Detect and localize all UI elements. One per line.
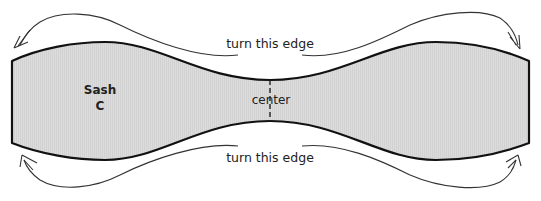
sash-name-label: Sash xyxy=(84,83,116,97)
bottom-edge-label: turn this edge xyxy=(226,150,314,165)
center-label: center xyxy=(252,93,291,107)
sash-diagram: turn this edge turn this edge center Sas… xyxy=(0,0,541,201)
top-edge-label: turn this edge xyxy=(226,36,314,51)
sash-letter-label: C xyxy=(96,99,105,113)
